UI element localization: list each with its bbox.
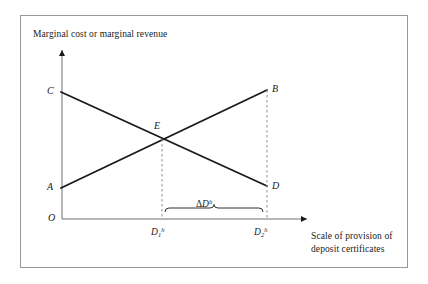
x-axis-title: Scale of provision of deposit certificat…: [311, 230, 403, 255]
point-label-d: D: [272, 180, 279, 191]
x-axis-title-line1: Scale of provision of: [311, 231, 393, 241]
tick-d1-sup: h: [161, 226, 164, 233]
tick-d2-base: D: [254, 227, 261, 237]
x-tick-label-d2: D2h: [254, 226, 267, 238]
x-axis-title-line2: deposit certificates: [311, 244, 384, 254]
point-label-c: C: [47, 85, 54, 96]
figure-root: Marginal cost or marginal revenue Scale …: [0, 0, 428, 284]
y-axis-title: Marginal cost or marginal revenue: [33, 29, 167, 39]
point-label-b: B: [272, 83, 278, 94]
x-tick-label-d1: D1h: [151, 226, 164, 238]
tick-d2-sup: h: [264, 226, 267, 233]
point-label-e: E: [154, 120, 160, 131]
point-label-a: A: [47, 181, 53, 192]
marginal-cost-line: [61, 90, 267, 188]
origin-label: O: [48, 212, 55, 223]
tick-d1-base: D: [151, 227, 158, 237]
delta-annotation: ΔDh: [196, 198, 212, 209]
delta-brace: [165, 205, 263, 213]
delta-variable: D: [202, 199, 209, 209]
delta-superscript: h: [209, 198, 212, 205]
